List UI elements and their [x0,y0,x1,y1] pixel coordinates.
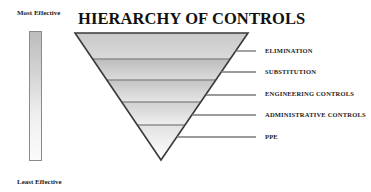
level-label-ppe: PPE [265,133,278,140]
band-elimination [75,33,248,59]
band-substitution [93,59,231,80]
pyramid-bands [75,33,248,160]
level-label-elimination: ELIMINATION [265,47,313,54]
band-ppe [137,125,185,160]
band-engineering [107,80,216,102]
level-label-administrative-controls: ADMINISTRATIVE CONTROLS [265,111,366,118]
level-label-substitution: SUBSTITUTION [265,68,316,75]
level-label-engineering-controls: ENGINEERING CONTROLS [265,90,354,97]
band-administrative [122,102,201,125]
